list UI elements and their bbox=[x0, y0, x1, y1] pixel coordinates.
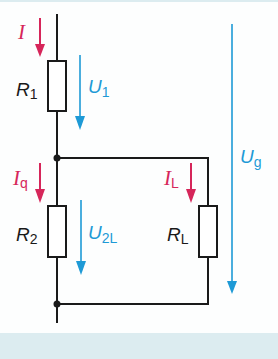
label-r2: R2 bbox=[16, 224, 38, 247]
label-voltage-u2l: U2L bbox=[88, 222, 118, 246]
circuit-diagram: R1 R2 RL I Iq IL U1 U2L Ug bbox=[0, 0, 278, 359]
label-rl: RL bbox=[167, 224, 189, 247]
label-r1: R1 bbox=[16, 79, 38, 102]
label-voltage-u1: U1 bbox=[88, 76, 110, 100]
junction-top bbox=[54, 155, 61, 162]
resistor-r1 bbox=[48, 61, 66, 111]
label-current-iq: Iq bbox=[12, 166, 28, 191]
label-current-i: I bbox=[17, 20, 26, 44]
wire-load-top bbox=[57, 158, 208, 206]
circuit-svg: R1 R2 RL I Iq IL U1 U2L Ug bbox=[0, 0, 278, 359]
label-voltage-ug: Ug bbox=[240, 146, 262, 170]
label-current-il: IL bbox=[163, 166, 179, 191]
voltage-arrowhead-u2l bbox=[76, 261, 86, 275]
resistor-r2 bbox=[48, 206, 66, 257]
current-arrowhead-iq bbox=[35, 189, 45, 203]
junction-bottom bbox=[54, 301, 61, 308]
current-arrowhead-i bbox=[35, 44, 45, 57]
current-arrowhead-il bbox=[186, 189, 196, 203]
voltage-arrowhead-u1 bbox=[75, 116, 85, 130]
voltage-arrowhead-ug bbox=[227, 281, 237, 294]
resistor-rl bbox=[199, 206, 217, 257]
